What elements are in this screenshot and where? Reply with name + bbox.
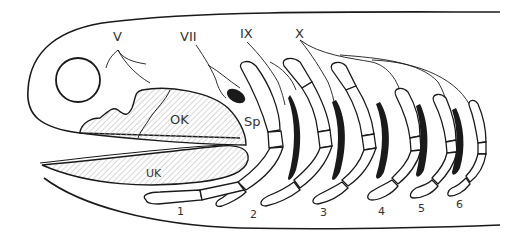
label-arch-2: 2 — [250, 209, 257, 220]
label-lower-jaw-uk: UK — [146, 168, 161, 179]
label-arch-6: 6 — [456, 199, 463, 210]
label-nerve-v: V — [113, 30, 122, 43]
label-arch-5: 5 — [418, 203, 425, 214]
label-spiracle-sp: Sp — [244, 115, 261, 128]
label-nerve-x: X — [295, 27, 304, 40]
spiracle — [224, 86, 247, 106]
label-nerve-vii: VII — [180, 30, 197, 43]
gill-slit-2 — [332, 100, 345, 180]
arch-2-joint — [268, 131, 283, 148]
label-arch-4: 4 — [378, 206, 385, 217]
gill-slit-3 — [376, 102, 389, 179]
label-arch-1: 1 — [177, 206, 184, 217]
eye — [56, 58, 100, 102]
arch-1-lower — [144, 190, 202, 204]
label-nerve-ix: IX — [240, 27, 253, 40]
upper-jaw-ok — [80, 88, 246, 145]
nerve-v-branches — [106, 50, 150, 83]
label-upper-jaw-ok: OK — [170, 113, 189, 126]
gill-slit-1 — [288, 95, 300, 180]
label-arch-3: 3 — [320, 207, 327, 218]
